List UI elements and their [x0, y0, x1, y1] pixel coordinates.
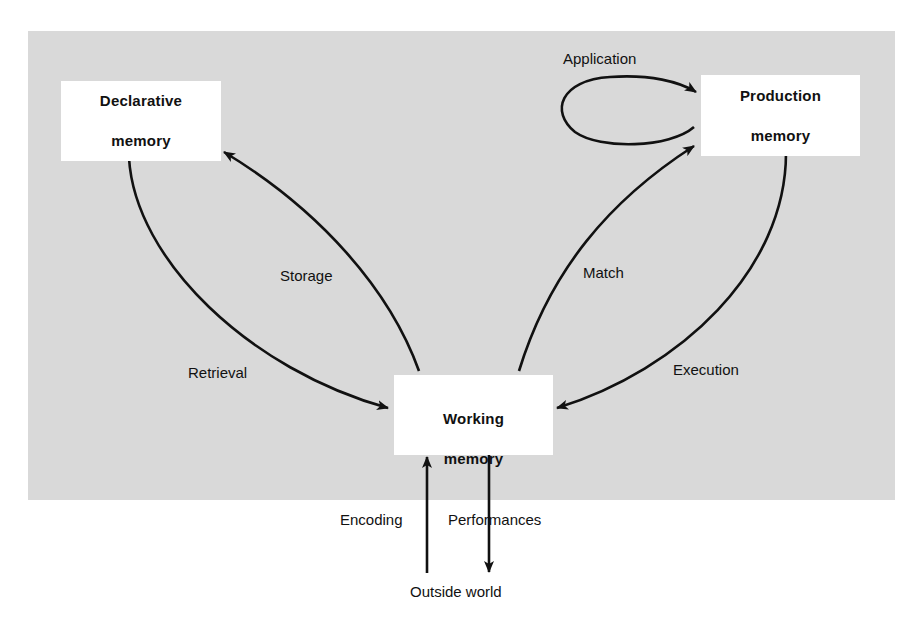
match-label: Match [583, 264, 624, 282]
working-memory-label-line2: memory [443, 449, 504, 469]
retrieval-label: Retrieval [188, 364, 247, 382]
production-memory-label-line1: Production [740, 86, 821, 106]
declarative-memory-label-line2: memory [100, 131, 182, 151]
application-label: Application [563, 50, 636, 68]
production-memory-label-line2: memory [740, 126, 821, 146]
declarative-memory-label-line1: Declarative [100, 91, 182, 111]
declarative-memory-node: Declarative memory [61, 81, 221, 161]
outside-world-label: Outside world [410, 583, 502, 601]
working-memory-node: Working memory [394, 375, 553, 455]
execution-label: Execution [673, 361, 739, 379]
production-memory-node: Production memory [701, 75, 860, 156]
performances-label: Performances [448, 511, 541, 529]
encoding-label: Encoding [340, 511, 403, 529]
storage-label: Storage [280, 267, 333, 285]
working-memory-label-line1: Working [443, 409, 504, 429]
